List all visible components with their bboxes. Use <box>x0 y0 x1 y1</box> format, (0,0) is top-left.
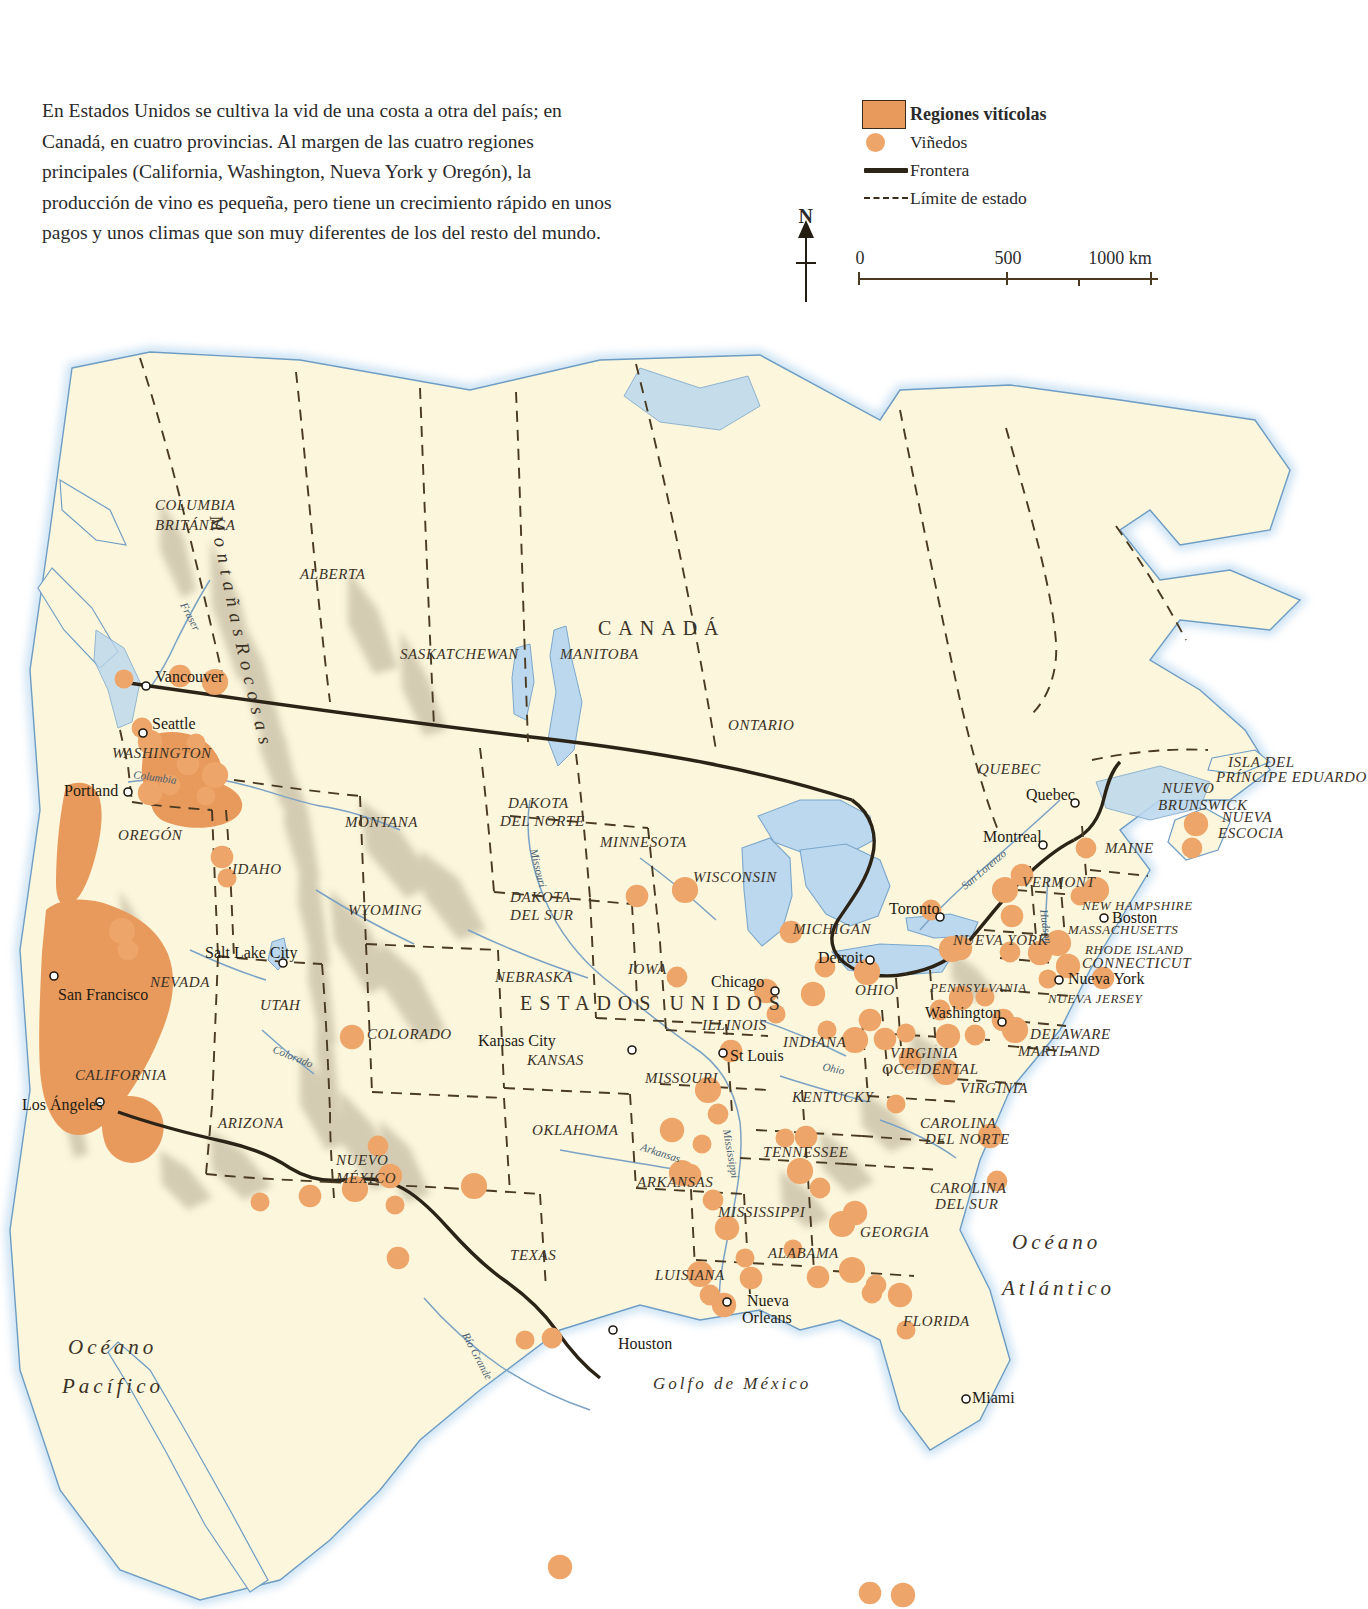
scale-tick-0: 0 <box>856 248 865 269</box>
vineyard-dot <box>1184 812 1208 836</box>
vineyard-dot <box>542 1328 563 1349</box>
state-label: DELAWARE <box>1029 1026 1111 1042</box>
vineyard-dot <box>965 1025 986 1046</box>
vineyard-dot <box>299 1185 322 1208</box>
vineyard-dot <box>1076 838 1097 859</box>
state-label: INDIANA <box>782 1034 847 1050</box>
city-label: Portland <box>64 782 118 799</box>
state-label: CONNECTICUT <box>1082 955 1192 971</box>
vineyard-dot <box>810 1178 831 1199</box>
water-label: Océano <box>1012 1230 1101 1254</box>
country-label: ESTADOS UNIDOS <box>520 992 787 1014</box>
compass-needle-icon <box>805 232 807 302</box>
state-label: UTAH <box>260 997 301 1013</box>
vineyard-dot <box>660 1118 684 1142</box>
vineyard-dot <box>387 1247 410 1270</box>
state-label: VIRGINIA <box>890 1045 958 1061</box>
country-label: CANADÁ <box>598 617 726 639</box>
vineyard-dot <box>859 1582 882 1605</box>
state-label: KENTUCKY <box>791 1089 875 1105</box>
scale-tick-500: 500 <box>995 248 1022 269</box>
state-label: DEL NORTE <box>499 813 585 829</box>
vineyard-dot <box>859 1009 882 1032</box>
state-label: WYOMING <box>348 902 422 918</box>
legend-item-regiones: Regiones vitícolas <box>862 100 1192 128</box>
province-label: MANITOBA <box>559 646 639 662</box>
state-label: MISSOURI <box>644 1070 719 1086</box>
state-label: MAINE <box>1104 840 1154 856</box>
state-label: MONTANA <box>344 814 418 830</box>
state-label: WISCONSIN <box>693 869 777 885</box>
vineyard-dot <box>138 781 162 805</box>
vineyard-dot <box>992 877 1018 903</box>
city-marker-icon <box>139 729 147 737</box>
vineyard-dot <box>461 1173 487 1199</box>
city-label: St Louis <box>730 1047 784 1064</box>
scale-tick-1000: 1000 km <box>1088 248 1152 269</box>
vineyard-dot <box>340 1025 364 1049</box>
city-label: Quebec <box>1026 786 1075 803</box>
state-label: CAROLINA <box>920 1115 997 1131</box>
province-label: ALBERTA <box>299 566 366 582</box>
state-label: ARIZONA <box>217 1115 284 1131</box>
city-marker-icon <box>50 972 58 980</box>
vineyard-dot <box>839 1257 865 1283</box>
vineyard-dot <box>516 1331 535 1350</box>
province-label: QUEBEC <box>978 761 1041 777</box>
state-label: IOWA <box>627 961 667 977</box>
state-label: MASSACHUSETTS <box>1067 922 1178 937</box>
vineyard-dot <box>740 1267 763 1290</box>
city-label: Montreal <box>983 828 1042 845</box>
state-label: MICHIGAN <box>792 921 872 937</box>
vineyard-dot <box>118 940 139 961</box>
city-label: Salt Lake City <box>205 944 297 962</box>
state-label: DAKOTA <box>509 889 571 905</box>
state-label: MARYLAND <box>1017 1043 1100 1059</box>
city-label: Toronto <box>889 900 939 917</box>
vineyard-dot <box>708 1104 729 1125</box>
city-marker-icon <box>609 1326 617 1334</box>
wine-region-swatch-icon <box>862 100 910 129</box>
vineyard-dot-icon <box>862 133 910 152</box>
vineyard-dot <box>736 1249 755 1268</box>
state-label: DAKOTA <box>507 795 569 811</box>
vineyard-dot <box>202 762 228 788</box>
state-label: MISSISSIPPI <box>717 1204 806 1220</box>
water-label: Golfo de México <box>653 1374 811 1393</box>
state-label: NEW HAMPSHIRE <box>1081 898 1193 913</box>
vineyard-dot <box>1001 905 1024 928</box>
province-label: COLUMBIA <box>155 497 236 513</box>
state-label: MÉXICO <box>335 1170 396 1186</box>
vineyard-dot <box>386 1196 405 1215</box>
state-label: KANSAS <box>526 1052 584 1068</box>
province-label: SASKATCHEWAN <box>400 646 519 662</box>
state-label: ARKANSAS <box>636 1174 713 1190</box>
city-label: San Francisco <box>58 986 148 1003</box>
vineyard-dot <box>1182 838 1203 859</box>
legend-item-frontera: Frontera <box>862 156 1192 184</box>
city-label: Nueva York <box>1068 970 1144 987</box>
state-label: FLORIDA <box>902 1313 970 1329</box>
city-marker-icon <box>1100 914 1108 922</box>
scale-bar-line <box>858 272 1158 286</box>
vineyard-dot <box>626 885 649 908</box>
map-legend: Regiones vitícolas Viñedos Frontera Lími… <box>862 100 1192 212</box>
city-marker-icon <box>866 956 874 964</box>
compass-rose: N <box>786 205 826 302</box>
state-line-icon <box>862 197 910 199</box>
water-label: Océano <box>68 1335 157 1359</box>
state-label: LUISIANA <box>654 1267 725 1283</box>
province-label: ESCOCIA <box>1217 825 1284 841</box>
vineyard-dot <box>787 1158 813 1184</box>
state-label: OKLAHOMA <box>532 1122 619 1138</box>
province-label: NUEVA <box>1221 809 1272 825</box>
state-label: DEL NORTE <box>924 1131 1010 1147</box>
vineyard-dot <box>807 1266 830 1289</box>
city-label: Orleans <box>742 1309 792 1326</box>
city-label: Detroit <box>818 949 864 966</box>
vineyard-dot <box>115 670 134 689</box>
state-label: OCCIDENTAL <box>882 1061 979 1077</box>
vineyard-dot <box>891 1583 915 1607</box>
vineyard-dot <box>829 1211 855 1237</box>
vineyard-dot <box>888 1283 912 1307</box>
